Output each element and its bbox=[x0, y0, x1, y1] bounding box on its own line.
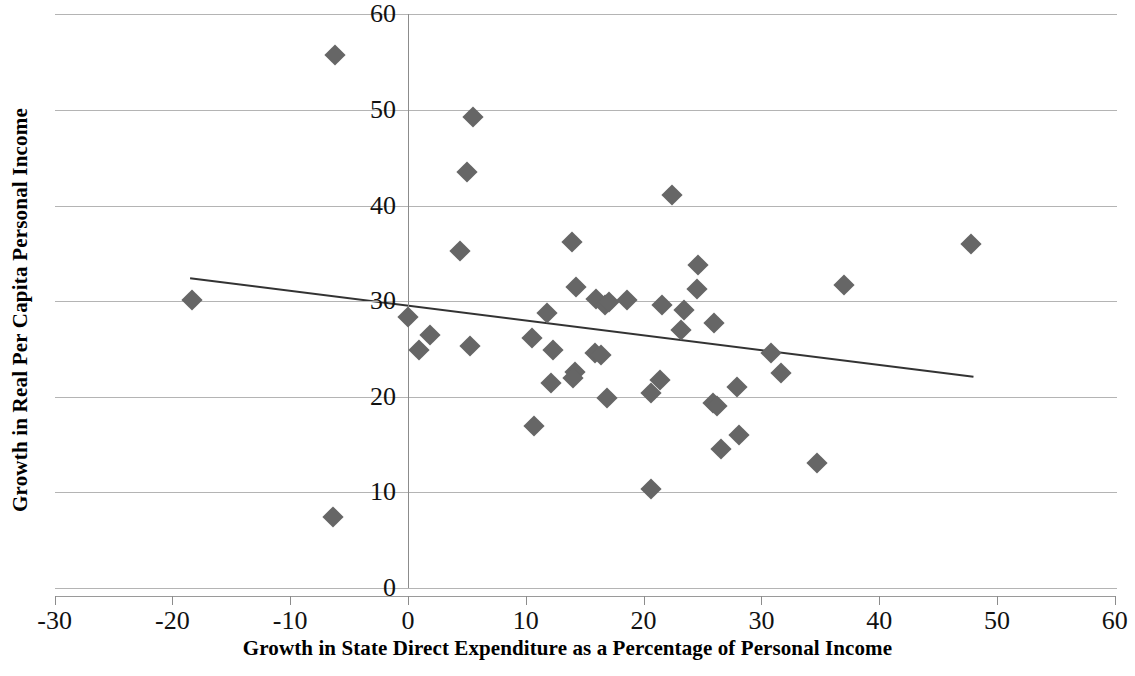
data-point-marker bbox=[771, 362, 792, 383]
y-gridline bbox=[55, 397, 1117, 398]
y-gridline bbox=[55, 588, 1117, 589]
data-point-marker bbox=[456, 162, 477, 183]
x-tick-mark bbox=[55, 596, 56, 605]
x-tick-label: 50 bbox=[984, 606, 1010, 636]
data-point-marker bbox=[711, 439, 732, 460]
scatter-plot-figure: Growth in Real Per Capita Personal Incom… bbox=[0, 0, 1135, 676]
x-tick-label: 40 bbox=[866, 606, 892, 636]
data-point-marker bbox=[704, 313, 725, 334]
x-tick-label: -20 bbox=[155, 606, 190, 636]
data-point-marker bbox=[542, 339, 563, 360]
y-gridline bbox=[55, 110, 1117, 111]
data-point-marker bbox=[322, 507, 343, 528]
plot-area: 0102030405060-30-20-100102030405060 bbox=[0, 0, 1135, 676]
x-tick-label: 60 bbox=[1102, 606, 1128, 636]
data-point-marker bbox=[673, 299, 694, 320]
data-point-marker bbox=[960, 233, 981, 254]
data-point-marker bbox=[566, 276, 587, 297]
y-tick-label: 20 bbox=[370, 382, 402, 412]
data-point-marker bbox=[833, 274, 854, 295]
data-point-marker bbox=[449, 241, 470, 262]
data-point-marker bbox=[652, 294, 673, 315]
data-point-marker bbox=[686, 278, 707, 299]
data-point-marker bbox=[182, 290, 203, 311]
x-axis-line bbox=[55, 596, 1115, 597]
x-tick-mark bbox=[290, 596, 291, 605]
data-point-marker bbox=[521, 328, 542, 349]
data-point-marker bbox=[596, 387, 617, 408]
x-tick-mark bbox=[644, 596, 645, 605]
y-tick-label: 50 bbox=[370, 95, 402, 125]
data-point-marker bbox=[540, 373, 561, 394]
x-tick-mark bbox=[879, 596, 880, 605]
x-tick-label: 20 bbox=[631, 606, 657, 636]
x-tick-mark bbox=[408, 596, 409, 605]
x-tick-mark bbox=[172, 596, 173, 605]
data-point-marker bbox=[616, 290, 637, 311]
data-point-marker bbox=[760, 342, 781, 363]
y-gridline bbox=[55, 492, 1117, 493]
data-point-marker bbox=[687, 254, 708, 275]
data-point-marker bbox=[640, 478, 661, 499]
x-tick-label: -30 bbox=[37, 606, 72, 636]
y-axis-line bbox=[408, 14, 409, 588]
data-point-marker bbox=[806, 452, 827, 473]
y-tick-label: 60 bbox=[370, 0, 402, 29]
y-gridline bbox=[55, 14, 1117, 15]
x-axis-title: Growth in State Direct Expenditure as a … bbox=[0, 636, 1135, 661]
y-gridline bbox=[55, 301, 1117, 302]
data-point-marker bbox=[523, 416, 544, 437]
x-tick-mark bbox=[526, 596, 527, 605]
x-tick-mark bbox=[761, 596, 762, 605]
x-tick-label: 10 bbox=[513, 606, 539, 636]
x-tick-mark bbox=[1115, 596, 1116, 605]
x-tick-label: -10 bbox=[273, 606, 308, 636]
y-tick-label: 0 bbox=[383, 573, 402, 603]
x-tick-label: 0 bbox=[402, 606, 415, 636]
data-point-marker bbox=[420, 324, 441, 345]
x-tick-mark bbox=[997, 596, 998, 605]
data-point-marker bbox=[726, 377, 747, 398]
data-point-marker bbox=[671, 319, 692, 340]
data-point-marker bbox=[460, 336, 481, 357]
y-tick-label: 10 bbox=[370, 477, 402, 507]
x-tick-label: 30 bbox=[748, 606, 774, 636]
data-point-marker bbox=[661, 184, 682, 205]
data-point-marker bbox=[536, 302, 557, 323]
data-point-marker bbox=[561, 231, 582, 252]
y-gridline bbox=[55, 206, 1117, 207]
y-tick-label: 40 bbox=[370, 191, 402, 221]
data-point-marker bbox=[728, 424, 749, 445]
data-point-marker bbox=[324, 44, 345, 65]
y-tick-label: 30 bbox=[370, 286, 402, 316]
trendline bbox=[0, 0, 1135, 676]
